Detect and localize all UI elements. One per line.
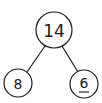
left-part-node: 8 (4, 69, 32, 97)
right-part-node: 6 (70, 70, 98, 98)
right-part-value: 6 (80, 75, 89, 91)
left-part-value: 8 (14, 76, 23, 92)
whole-node: 14 (36, 12, 72, 48)
number-bond-svg: 14 8 6 (0, 0, 102, 103)
edge-whole-to-right-part (62, 46, 78, 72)
edge-whole-to-left-part (27, 46, 45, 72)
number-bond-diagram: 14 8 6 (0, 0, 102, 103)
whole-value: 14 (43, 21, 65, 41)
